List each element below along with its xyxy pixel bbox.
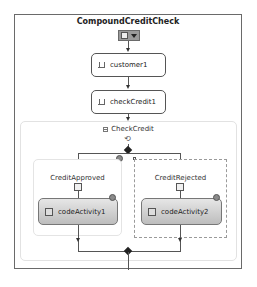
workflow-title: CompoundCreditCheck (14, 17, 242, 26)
connector (128, 252, 129, 270)
code-icon (148, 208, 156, 216)
activity-label: customer1 (110, 61, 147, 69)
warning-icon[interactable] (213, 194, 220, 201)
connector (78, 191, 79, 198)
warning-icon[interactable] (109, 194, 116, 201)
connector (180, 191, 181, 198)
fork-line (78, 153, 181, 154)
arrow-down-icon (76, 238, 80, 242)
activity-label: codeActivity1 (58, 208, 106, 216)
parallel-header: CheckCredit (20, 125, 237, 133)
arrow-down-icon (126, 48, 130, 52)
code-activity-2[interactable]: codeActivity2 (141, 198, 222, 225)
sequence-icon (176, 183, 184, 191)
dropdown-arrow-icon (131, 34, 137, 38)
workflow-header-button[interactable] (118, 30, 140, 41)
activity-label: codeActivity2 (161, 208, 209, 216)
receive-activity-icon (98, 62, 105, 69)
parallel-label: CheckCredit (111, 125, 154, 133)
activity-checkCredit1[interactable]: checkCredit1 (91, 90, 166, 114)
activity-customer1[interactable]: customer1 (91, 53, 166, 77)
document-icon (121, 32, 128, 39)
receive-activity-icon (98, 99, 105, 106)
branch-label: CreditRejected (134, 174, 227, 182)
minus-icon[interactable] (103, 127, 108, 132)
arrow-down-icon (126, 85, 130, 89)
activity-label: checkCredit1 (110, 98, 156, 106)
branch-label: CreditApproved (33, 174, 122, 182)
code-activity-1[interactable]: codeActivity1 (38, 198, 118, 225)
parallel-icon: ⟲ (124, 135, 131, 143)
sequence-icon (74, 183, 82, 191)
arrow-down-icon (178, 238, 182, 242)
code-icon (45, 208, 53, 216)
